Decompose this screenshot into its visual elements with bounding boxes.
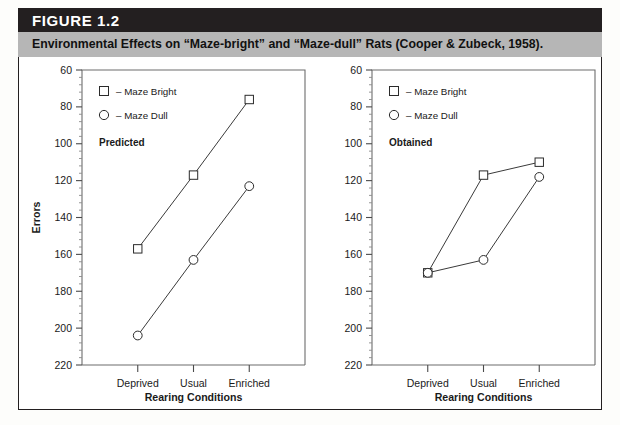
figure-caption-text: Environmental Effects on “Maze-bright” a… [32,37,543,51]
legend-label-bright: – Maze Bright [406,86,467,97]
x-tick-label: Enriched [519,377,561,389]
y-tick-label: 100 [344,137,362,149]
figure-number-label: FIGURE 1.2 [32,12,120,29]
y-tick-label: 120 [54,174,72,186]
chart-svg-obtained: 6080100120140160180200220DeprivedUsualEn… [308,57,608,410]
y-tick-label: 160 [344,248,362,260]
y-tick-label: 200 [54,322,72,334]
circle-marker-icon [245,182,254,191]
x-tick-label: Deprived [407,377,449,389]
legend-circle-marker-icon [99,110,108,119]
panel-condition-label: Obtained [389,137,432,148]
y-tick-label: 100 [54,137,72,149]
circle-marker-icon [189,256,198,265]
chart-panel-obtained: 6080100120140160180200220DeprivedUsualEn… [308,57,608,410]
y-tick-label: 160 [54,248,72,260]
square-marker-icon [479,171,487,179]
legend-label-bright: – Maze Bright [116,86,177,97]
legend-circle-marker-icon [389,110,398,119]
y-tick-label: 200 [344,322,362,334]
figure-header-bar: FIGURE 1.2 [18,8,602,32]
legend-square-marker-icon [100,87,109,96]
y-tick-label: 220 [344,359,362,371]
figure-container: FIGURE 1.2 Environmental Effects on “Maz… [0,0,620,425]
y-tick-label: 60 [60,64,72,76]
chart-panel-predicted: 6080100120140160180200220DeprivedUsualEn… [18,57,318,410]
figure-caption-bar: Environmental Effects on “Maze-bright” a… [18,32,602,59]
square-marker-icon [134,245,142,253]
circle-marker-icon [423,268,432,277]
y-tick-label: 180 [344,285,362,297]
legend-label-dull: – Maze Dull [406,110,458,121]
x-tick-label: Deprived [117,377,159,389]
y-tick-label: 80 [350,100,362,112]
y-tick-label: 120 [344,174,362,186]
y-axis-title: Errors [30,201,42,233]
square-marker-icon [189,171,197,179]
y-tick-label: 180 [54,285,72,297]
x-tick-label: Usual [470,377,497,389]
chart-svg-predicted: 6080100120140160180200220DeprivedUsualEn… [18,57,318,410]
square-marker-icon [535,158,543,166]
circle-marker-icon [535,173,544,182]
legend-square-marker-icon [390,87,399,96]
x-axis-title: Rearing Conditions [145,391,243,403]
y-tick-label: 220 [54,359,72,371]
x-axis-title: Rearing Conditions [435,391,533,403]
circle-marker-icon [479,256,488,265]
y-tick-label: 80 [60,100,72,112]
y-tick-label: 60 [350,64,362,76]
x-tick-label: Enriched [229,377,271,389]
panel-condition-label: Predicted [99,137,145,148]
square-marker-icon [245,95,253,103]
y-tick-label: 140 [344,211,362,223]
y-tick-label: 140 [54,211,72,223]
circle-marker-icon [133,331,142,340]
x-tick-label: Usual [180,377,207,389]
legend-label-dull: – Maze Dull [116,110,168,121]
